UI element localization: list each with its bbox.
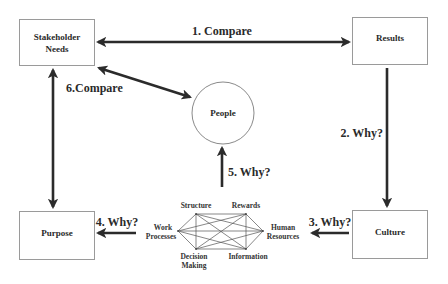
- why-4-label: 4. Why?: [96, 215, 138, 229]
- decision-making-label-line1: Decision: [180, 252, 208, 261]
- work-processes-label-line2: Processes: [146, 232, 176, 241]
- human-resources-label-line1: Human: [271, 223, 296, 232]
- organization-diagnosis-diagram: Stakeholder Needs Results Purpose Cultur…: [0, 0, 448, 284]
- edge-why-4: 4. Why?: [96, 215, 138, 233]
- edge-why-2: 2. Why?: [341, 68, 387, 206]
- culture-label: Culture: [375, 227, 405, 237]
- mesh-vertex-information: [245, 248, 247, 250]
- structure-label: Structure: [181, 201, 212, 210]
- information-label: Information: [228, 252, 268, 261]
- mesh-link-work-processes-rewards: [178, 214, 246, 231]
- compare-6-label: 6.Compare: [66, 81, 123, 95]
- why-3-label: 3. Why?: [309, 215, 351, 229]
- why-5-label: 5. Why?: [228, 165, 270, 179]
- stakeholder-needs-box: [20, 20, 95, 66]
- mesh-link-work-processes-information: [178, 231, 246, 249]
- mesh-vertex-work-processes: [177, 230, 179, 232]
- node-results: Results: [353, 18, 428, 65]
- compare-1-label: 1. Compare: [192, 24, 252, 38]
- mesh-vertex-rewards: [245, 213, 247, 215]
- people-label: People: [210, 108, 236, 118]
- hexagon-labels: Structure Rewards Work Processes Human R…: [146, 201, 299, 270]
- work-processes-label-line1: Work: [154, 223, 173, 232]
- why-2-label: 2. Why?: [341, 126, 383, 140]
- results-label: Results: [376, 33, 404, 43]
- purpose-label: Purpose: [41, 228, 73, 238]
- mesh-vertex-decision-making: [195, 248, 197, 250]
- node-purpose: Purpose: [20, 212, 95, 260]
- stakeholder-needs-label-line2: Needs: [46, 44, 69, 54]
- human-resources-label-line2: Resources: [267, 232, 299, 241]
- stakeholder-needs-label-line1: Stakeholder: [34, 32, 81, 42]
- edge-compare-1: 1. Compare: [98, 24, 349, 42]
- mesh-link-structure-human-resources: [196, 214, 263, 231]
- mesh-link-human-resources-decision-making: [196, 231, 263, 249]
- decision-making-label-line2: Making: [181, 261, 206, 270]
- node-people: People: [192, 82, 254, 144]
- mesh-link-human-resources-information: [246, 231, 263, 249]
- mesh-vertex-structure: [195, 213, 197, 215]
- mesh-vertex-human-resources: [262, 230, 264, 232]
- edge-why-5: 5. Why?: [222, 148, 270, 187]
- edge-compare-6: 6.Compare: [66, 68, 190, 97]
- node-culture: Culture: [353, 211, 428, 259]
- node-stakeholder-needs: Stakeholder Needs: [20, 20, 95, 66]
- organization-elements-network: [177, 213, 264, 250]
- rewards-label: Rewards: [232, 201, 260, 210]
- mesh-link-rewards-human-resources: [246, 214, 263, 231]
- edge-why-3: 3. Why?: [309, 215, 351, 233]
